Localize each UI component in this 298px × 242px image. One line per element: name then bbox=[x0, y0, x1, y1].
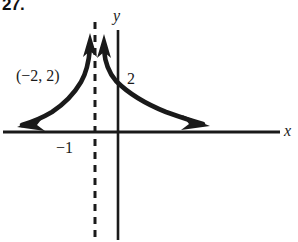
asymptote-x-value-label: −1 bbox=[56, 140, 73, 156]
y-intercept-label: 2 bbox=[127, 71, 135, 87]
figure-container: 27. (−2, 2) 2 −1 x y bbox=[0, 0, 298, 242]
left-branch-curve bbox=[22, 48, 90, 125]
x-axis-label: x bbox=[284, 123, 291, 139]
graph-canvas bbox=[0, 0, 298, 242]
figure-number: 27. bbox=[2, 0, 24, 13]
point-coordinate-label: (−2, 2) bbox=[16, 68, 60, 84]
right-branch-right-arrowhead bbox=[181, 115, 210, 130]
y-axis-label: y bbox=[113, 8, 120, 24]
